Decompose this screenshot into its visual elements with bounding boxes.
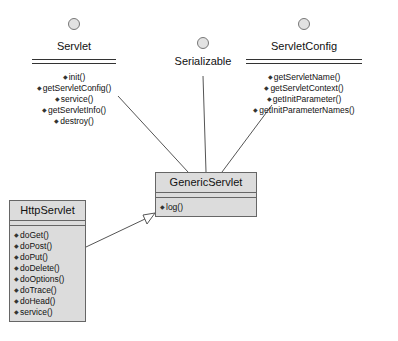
method-list: init() getServletConfig() service() getS… — [32, 72, 116, 127]
interface-lollipop-icon — [197, 37, 209, 49]
interface-serializable[interactable]: Serializable — [160, 37, 246, 67]
class-name: GenericServlet — [156, 173, 256, 192]
class-httpservlet[interactable]: HttpServlet doGet() doPost() doPut() doD… — [9, 200, 86, 322]
method: doPut() — [14, 252, 81, 263]
method-list: log() — [156, 198, 256, 216]
method: doHead() — [14, 296, 81, 307]
method: getServletInfo() — [32, 105, 116, 116]
method-list: doGet() doPost() doPut() doDelete() doOp… — [10, 226, 85, 321]
method: destroy() — [32, 116, 116, 127]
method: doGet() — [14, 230, 81, 241]
method: getServletConfig() — [32, 83, 116, 94]
method: init() — [32, 72, 116, 83]
interface-name: Servlet — [32, 40, 116, 52]
class-genericservlet[interactable]: GenericServlet log() — [155, 172, 257, 217]
method: getInitParameterNames() — [246, 105, 362, 116]
method: doTrace() — [14, 285, 81, 296]
interface-name: Serializable — [160, 55, 246, 67]
class-name: HttpServlet — [10, 201, 85, 220]
method-list: getServletName() getServletContext() get… — [246, 72, 362, 116]
method: log() — [160, 202, 252, 213]
interface-name: ServletConfig — [246, 40, 362, 52]
interface-servletconfig[interactable]: ServletConfig getServletName() getServle… — [246, 18, 362, 116]
method: service() — [14, 307, 81, 318]
interface-lollipop-icon — [68, 18, 80, 30]
method: doPost() — [14, 241, 81, 252]
method: getServletName() — [246, 72, 362, 83]
interface-servlet[interactable]: Servlet init() getServletConfig() servic… — [32, 18, 116, 127]
method: getInitParameter() — [246, 94, 362, 105]
method: getServletContext() — [246, 83, 362, 94]
method: doOptions() — [14, 274, 81, 285]
interface-lollipop-icon — [298, 18, 310, 30]
method: service() — [32, 94, 116, 105]
separator — [246, 59, 362, 64]
separator — [32, 59, 116, 64]
method: doDelete() — [14, 263, 81, 274]
